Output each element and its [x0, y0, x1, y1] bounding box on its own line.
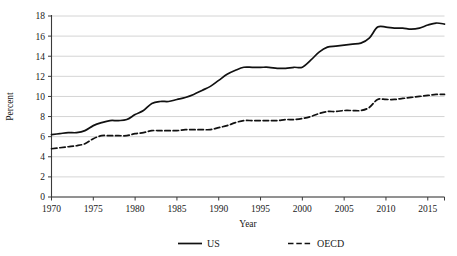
x-tick-label-2015: 2015: [418, 204, 437, 214]
x-tick-label-1985: 1985: [167, 204, 186, 214]
y-tick-label-18: 18: [36, 11, 46, 21]
y-tick-label-12: 12: [36, 72, 46, 82]
y-axis-title: Percent: [5, 92, 15, 121]
chart-figure: 024681012141618 197019751980198519901995…: [0, 0, 457, 256]
x-tick-labels-group: 1970197519801985199019952000200520102015: [42, 204, 438, 214]
y-tick-label-6: 6: [40, 132, 45, 142]
legend-label-oecd: OECD: [317, 238, 344, 249]
x-tick-label-1975: 1975: [84, 204, 103, 214]
x-tick-label-2005: 2005: [335, 204, 354, 214]
x-tick-label-1980: 1980: [126, 204, 145, 214]
x-tick-label-1990: 1990: [209, 204, 228, 214]
y-tick-label-8: 8: [40, 112, 45, 122]
legend-group: USOECD: [178, 238, 344, 249]
x-tick-label-2000: 2000: [293, 204, 312, 214]
axes-group: [52, 15, 445, 197]
y-tick-label-14: 14: [36, 52, 46, 62]
y-tick-label-16: 16: [36, 32, 46, 42]
legend-label-us: US: [207, 238, 220, 249]
series-line-us: [52, 23, 445, 135]
x-tick-label-1995: 1995: [251, 204, 270, 214]
y-tick-labels-group: 024681012141618: [36, 11, 46, 202]
x-tick-label-2010: 2010: [376, 204, 395, 214]
y-tick-label-4: 4: [40, 152, 45, 162]
tick-marks-group: [48, 16, 445, 201]
y-tick-label-10: 10: [36, 92, 46, 102]
gridlines-group: [52, 16, 445, 197]
y-tick-label-2: 2: [40, 172, 45, 182]
data-series-group: [52, 23, 445, 149]
x-tick-label-1970: 1970: [42, 204, 61, 214]
line-chart: 024681012141618 197019751980198519901995…: [0, 0, 457, 256]
y-tick-label-0: 0: [40, 192, 45, 202]
x-axis-title: Year: [239, 219, 257, 229]
series-line-oecd: [52, 94, 445, 148]
